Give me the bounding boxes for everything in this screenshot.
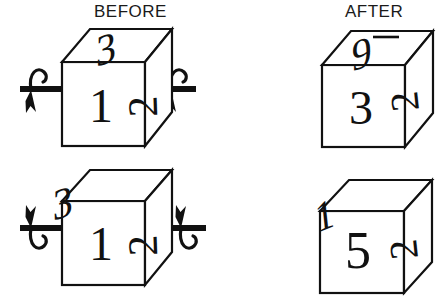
- before-cube-top-top-digit: 3: [96, 22, 116, 77]
- after-cube-bottom-front-digit: 5: [345, 222, 371, 279]
- before-cube-bottom-right-digit: 2: [120, 234, 167, 257]
- before-cube-bottom-group: 1 3 2: [20, 170, 206, 285]
- after-cube-top-front-digit: 3: [349, 81, 373, 134]
- after-cube-top-group: 3 9 2: [322, 26, 433, 147]
- after-cube-bottom-group: 5 1 2: [313, 180, 432, 293]
- before-cube-bottom-body: [62, 170, 172, 285]
- after-cube-top-body: [322, 31, 433, 147]
- before-cube-top-front-digit: 1: [89, 79, 113, 132]
- before-cube-top-body: [62, 29, 172, 146]
- before-cube-top-group: 1 3 2: [20, 22, 196, 146]
- before-cube-top-right-digit: 2: [120, 95, 167, 118]
- cube-diagram-canvas: 1 3 2 3 9 2: [0, 0, 444, 302]
- before-cube-bottom-top-digit: 3: [53, 176, 73, 231]
- after-cube-top-top-digit: 9: [352, 26, 372, 81]
- after-cube-bottom-body: [320, 180, 432, 293]
- before-cube-bottom-front-digit: 1: [89, 217, 113, 270]
